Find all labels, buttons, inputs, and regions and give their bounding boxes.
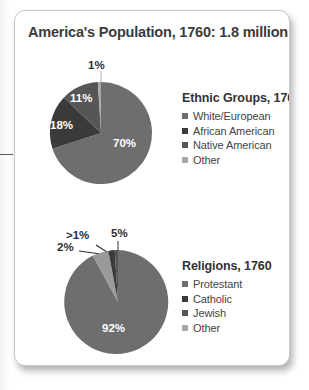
pie-label-protestant: 92%: [102, 322, 125, 334]
pie-label-white-european: 70%: [113, 137, 136, 149]
pie-label-jewish: 2%: [57, 241, 74, 253]
legend-swatch-icon-white-european: [182, 113, 188, 119]
legend-swatch-icon-catholic: [182, 296, 188, 302]
pie-chart-ethnic-groups: 1% 70% 18% 11%: [20, 59, 170, 189]
legend-item-white-european: White/European: [182, 110, 290, 122]
pie-chart-religions-svg: [32, 227, 182, 366]
legend-item-protestant: Protestant: [182, 278, 272, 290]
legend-label-other-ethnic: Other: [193, 154, 220, 166]
legend-label-protestant: Protestant: [193, 278, 242, 290]
legend-item-other-ethnic: Other: [182, 154, 290, 166]
legend-label-african-american: African American: [193, 125, 275, 137]
legend-item-native-american: Native American: [182, 139, 290, 151]
legend-title-ethnic-groups: Ethnic Groups, 1760: [182, 91, 290, 105]
legend-label-white-european: White/European: [193, 110, 270, 122]
legend-swatch-icon-african-american: [182, 128, 188, 134]
legend-label-other-religion: Other: [193, 322, 220, 334]
pie-label-african-american: 18%: [50, 119, 73, 131]
legend-ethnic-groups: Ethnic Groups, 1760 White/European Afric…: [182, 91, 290, 168]
legend-item-jewish: Jewish: [182, 307, 272, 319]
legend-title-religions: Religions, 1760: [182, 259, 272, 273]
pie-label-catholic: 5%: [111, 227, 128, 239]
legend-label-native-american: Native American: [193, 139, 272, 151]
legend-item-african-american: African American: [182, 125, 290, 137]
legend-religions: Religions, 1760 Protestant Catholic Jewi…: [182, 259, 272, 336]
legend-item-other-religion: Other: [182, 322, 272, 334]
pie-chart-religions: 5% >1% 2% 92%: [32, 227, 182, 366]
legend-label-jewish: Jewish: [193, 307, 226, 319]
legend-swatch-icon-protestant: [182, 281, 188, 287]
pie-label-native-american: 11%: [70, 92, 92, 104]
page-title: America's Population, 1760: 1.8 million: [28, 24, 288, 40]
legend-swatch-icon-other-ethnic: [182, 157, 188, 163]
infographic-card: America's Population, 1760: 1.8 million …: [14, 10, 290, 366]
pie-label-other-religion: >1%: [66, 229, 89, 241]
legend-swatch-icon-jewish: [182, 310, 188, 316]
pie-label-other: 1%: [88, 59, 105, 71]
legend-swatch-icon-native-american: [182, 142, 188, 148]
legend-swatch-icon-other-religion: [182, 325, 188, 331]
legend-item-catholic: Catholic: [182, 293, 272, 305]
legend-label-catholic: Catholic: [193, 293, 232, 305]
page-gutter-shading: [0, 0, 10, 390]
page-gutter-rule: [0, 154, 13, 155]
pie-chart-ethnic-groups-svg: [20, 59, 170, 189]
